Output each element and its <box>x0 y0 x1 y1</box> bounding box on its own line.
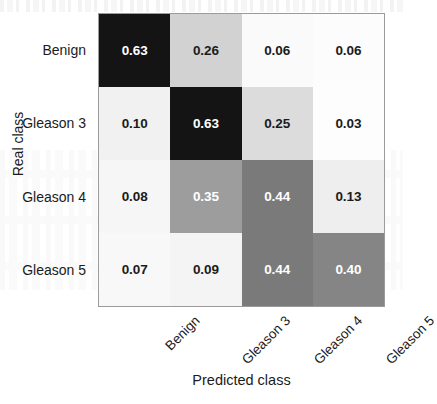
matrix-cell: 0.35 <box>170 160 241 233</box>
matrix-cell: 0.40 <box>313 233 384 306</box>
matrix-cell: 0.08 <box>99 160 170 233</box>
x-tick-gleason-4: Gleason 4 <box>311 313 365 367</box>
matrix-cell: 0.63 <box>170 87 241 160</box>
matrix-cell: 0.26 <box>170 14 241 87</box>
matrix-cell: 0.63 <box>99 14 170 87</box>
matrix-cell: 0.06 <box>313 14 384 87</box>
x-tick-benign: Benign <box>162 313 202 353</box>
y-axis-tick-labels: Benign Gleason 3 Gleason 4 Gleason 5 <box>0 13 93 307</box>
matrix-cell: 0.44 <box>242 160 313 233</box>
y-tick-gleason-4: Gleason 4 <box>0 160 93 234</box>
matrix-cell: 0.13 <box>313 160 384 233</box>
x-axis-tick-labels: Benign Gleason 3 Gleason 4 Gleason 5 <box>98 307 385 367</box>
matrix-cell: 0.03 <box>313 87 384 160</box>
confusion-matrix-grid: 0.63 0.26 0.06 0.06 0.10 0.63 0.25 0.03 … <box>98 13 385 307</box>
y-tick-gleason-5: Gleason 5 <box>0 234 93 308</box>
matrix-cell: 0.44 <box>242 233 313 306</box>
x-axis-title: Predicted class <box>98 372 385 388</box>
x-tick-gleason-5: Gleason 5 <box>383 313 437 367</box>
matrix-cell: 0.06 <box>242 14 313 87</box>
matrix-cell: 0.25 <box>242 87 313 160</box>
matrix-cell: 0.07 <box>99 233 170 306</box>
matrix-cell: 0.09 <box>170 233 241 306</box>
matrix-cell: 0.10 <box>99 87 170 160</box>
y-tick-benign: Benign <box>0 13 93 87</box>
x-tick-gleason-3: Gleason 3 <box>239 313 293 367</box>
y-tick-gleason-3: Gleason 3 <box>0 87 93 161</box>
